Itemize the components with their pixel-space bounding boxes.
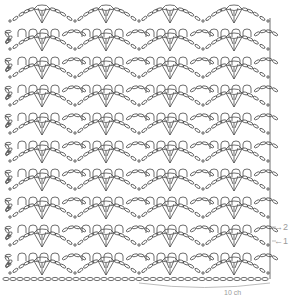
chain-stitch bbox=[260, 253, 266, 257]
chain-stitch bbox=[252, 180, 258, 185]
chain-stitch bbox=[205, 72, 211, 78]
chain-stitch bbox=[118, 121, 125, 126]
foundation-chain bbox=[206, 277, 212, 280]
chain-stitch bbox=[141, 184, 147, 190]
chain-stitch bbox=[12, 44, 18, 50]
foundation-chain bbox=[59, 277, 65, 280]
chain-stitch bbox=[182, 121, 189, 126]
row-1-label: ←1 bbox=[274, 236, 288, 246]
chain-stitch bbox=[205, 44, 211, 50]
chain-stitch bbox=[202, 113, 208, 117]
chain-stitch bbox=[68, 57, 74, 61]
single-crochet-mark bbox=[8, 131, 12, 135]
chain-stitch bbox=[130, 128, 136, 134]
chain-stitch bbox=[252, 236, 258, 241]
chain-stitch bbox=[74, 225, 80, 229]
foundation-chain bbox=[248, 277, 254, 280]
shell-top bbox=[226, 205, 242, 207]
chain-stitch bbox=[12, 156, 18, 162]
chain-stitch bbox=[124, 67, 130, 72]
shell-posts bbox=[162, 177, 178, 191]
single-crochet-mark bbox=[8, 75, 12, 79]
foundation-chain bbox=[94, 277, 100, 280]
shell-top bbox=[226, 37, 242, 39]
chain-stitch bbox=[74, 197, 80, 201]
chain-stitch bbox=[132, 85, 138, 89]
picot bbox=[18, 225, 26, 233]
foundation-chain bbox=[227, 277, 233, 280]
chain-stitch bbox=[68, 253, 74, 257]
chain-stitch bbox=[138, 29, 144, 33]
chain-stitch bbox=[54, 177, 61, 182]
shell-top bbox=[98, 177, 114, 179]
chain-stitch bbox=[126, 199, 132, 204]
chain-stitch bbox=[12, 16, 18, 22]
chain-stitch bbox=[66, 16, 72, 22]
chain-stitch bbox=[60, 67, 66, 72]
chain-stitch bbox=[156, 7, 162, 11]
foundation-chain bbox=[101, 277, 107, 280]
shell-posts bbox=[98, 233, 114, 247]
single-crochet-mark bbox=[137, 103, 141, 107]
chain-stitch bbox=[138, 85, 144, 89]
chain-stitch bbox=[124, 123, 130, 128]
chain-stitch bbox=[138, 225, 144, 229]
chain-stitch bbox=[252, 12, 258, 17]
chain-stitch bbox=[254, 143, 260, 148]
chain-stitch bbox=[80, 143, 86, 148]
foundation-chain bbox=[143, 277, 149, 280]
single-crochet-mark bbox=[8, 271, 12, 275]
shell-top bbox=[226, 121, 242, 123]
chain-stitch bbox=[208, 171, 214, 176]
chain-stitch bbox=[80, 227, 86, 232]
chain-stitch bbox=[247, 93, 254, 98]
chain-stitch bbox=[141, 16, 147, 22]
chain-stitch bbox=[54, 261, 61, 266]
chain-stitch bbox=[74, 141, 80, 145]
shell-posts bbox=[226, 177, 242, 191]
chain-stitch bbox=[126, 171, 132, 176]
chain-stitch bbox=[118, 65, 125, 70]
chain-stitch bbox=[252, 40, 258, 45]
chain-stitch bbox=[54, 37, 61, 42]
chain-stitch bbox=[194, 44, 200, 50]
picot bbox=[18, 253, 26, 261]
shell-top bbox=[34, 93, 50, 95]
chain-stitch bbox=[62, 87, 68, 92]
chain-stitch bbox=[62, 31, 68, 36]
chain-stitch bbox=[141, 100, 147, 106]
shell-posts bbox=[226, 9, 242, 23]
chain-stitch bbox=[208, 255, 214, 260]
shell-posts bbox=[226, 233, 242, 247]
chain-stitch bbox=[130, 240, 136, 246]
chain-stitch bbox=[138, 197, 144, 201]
chain-stitch bbox=[118, 177, 125, 182]
single-crochet-mark bbox=[201, 75, 205, 79]
foundation-chain bbox=[38, 277, 44, 280]
chain-stitch bbox=[272, 143, 278, 148]
chain-stitch bbox=[77, 128, 83, 134]
single-crochet-mark bbox=[266, 187, 270, 191]
shell-top bbox=[98, 205, 114, 207]
chain-stitch bbox=[12, 212, 18, 218]
shell-loops bbox=[34, 5, 50, 9]
single-crochet-mark bbox=[73, 103, 77, 107]
chain-stitch bbox=[62, 143, 68, 148]
chain-stitch bbox=[144, 87, 150, 92]
chain-stitch bbox=[138, 57, 144, 61]
chain-stitch bbox=[132, 169, 138, 173]
chain-stitch bbox=[124, 95, 130, 100]
chain-stitch bbox=[190, 199, 196, 204]
chain-stitch bbox=[188, 67, 194, 72]
shell-top bbox=[226, 9, 242, 11]
single-crochet-mark bbox=[201, 215, 205, 219]
shell-top bbox=[226, 177, 242, 179]
shell-top bbox=[34, 177, 50, 179]
chain-stitch bbox=[74, 29, 80, 33]
shell-top bbox=[34, 233, 50, 235]
shell-top bbox=[98, 261, 114, 263]
chain-stitch bbox=[182, 233, 189, 238]
chain-stitch bbox=[54, 65, 61, 70]
chain-stitch bbox=[259, 100, 265, 106]
chain-stitch bbox=[144, 199, 150, 204]
